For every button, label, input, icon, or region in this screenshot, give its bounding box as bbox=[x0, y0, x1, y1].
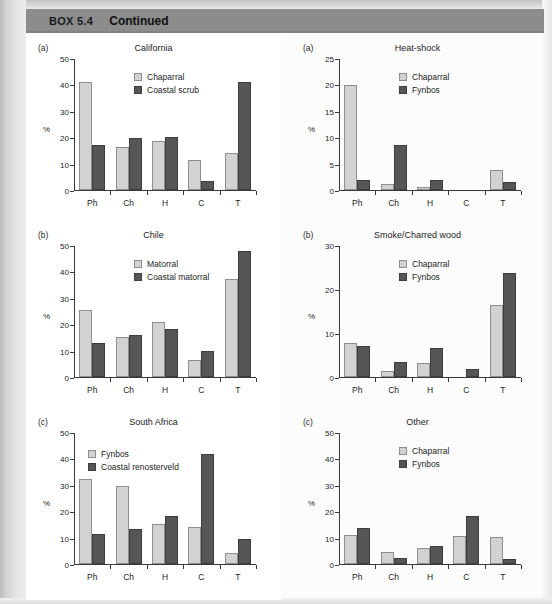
x-axis-tick-label: C bbox=[463, 385, 469, 395]
y-axis-label: % bbox=[308, 499, 315, 508]
x-axis-line bbox=[339, 564, 521, 565]
box-number-label: BOX 5.4 bbox=[49, 15, 93, 27]
x-axis-tick bbox=[183, 565, 184, 569]
bar bbox=[357, 180, 370, 190]
y-axis-tick-label: 30 bbox=[325, 242, 334, 251]
bar bbox=[344, 535, 357, 564]
y-axis-tick-label: 10 bbox=[325, 134, 334, 143]
bar bbox=[430, 180, 443, 190]
x-axis-tick-label: T bbox=[235, 198, 240, 208]
x-axis-tick-label: C bbox=[198, 572, 204, 582]
bar bbox=[188, 160, 201, 190]
bar bbox=[344, 85, 357, 190]
bar bbox=[381, 184, 394, 190]
x-axis-tick bbox=[412, 191, 413, 195]
x-axis-tick-label: Ch bbox=[388, 572, 399, 582]
scan-edge-top bbox=[0, 0, 552, 9]
chart-title: Heat-shock bbox=[291, 43, 544, 53]
chart-panel-california: (a)California%01020304050PhChHCTChaparra… bbox=[26, 37, 281, 224]
y-axis-tick-label: 10 bbox=[60, 160, 69, 169]
x-axis-tick-label: C bbox=[198, 385, 204, 395]
x-axis-tick-label: C bbox=[463, 572, 469, 582]
x-axis-tick bbox=[110, 565, 111, 569]
x-axis-line bbox=[74, 564, 256, 565]
y-axis-tick-label: 20 bbox=[325, 286, 334, 295]
chart-legend: ChaparralCoastal scrub bbox=[134, 70, 199, 96]
x-axis-tick bbox=[448, 191, 449, 195]
y-axis-tick bbox=[70, 59, 74, 60]
chart-title: Chile bbox=[26, 230, 281, 240]
x-axis-tick bbox=[110, 191, 111, 195]
y-axis-line bbox=[74, 59, 75, 191]
bar bbox=[79, 479, 92, 564]
y-axis-tick bbox=[70, 325, 74, 326]
bar bbox=[381, 371, 394, 377]
x-axis-tick bbox=[256, 565, 257, 569]
bar bbox=[238, 539, 251, 564]
bar bbox=[503, 559, 516, 564]
y-axis-line bbox=[74, 246, 75, 378]
legend-swatch-icon bbox=[88, 463, 96, 471]
y-axis-tick bbox=[335, 246, 339, 247]
x-axis-tick-label: Ph bbox=[352, 572, 362, 582]
y-axis-line bbox=[339, 433, 340, 565]
bar bbox=[116, 337, 129, 377]
y-axis-tick-label: 0 bbox=[65, 561, 69, 570]
y-axis-tick bbox=[70, 512, 74, 513]
bar bbox=[466, 369, 479, 377]
y-axis-tick-label: 15 bbox=[325, 107, 334, 116]
y-axis-tick-label: 20 bbox=[60, 508, 69, 517]
legend-label: Chaparral bbox=[412, 446, 449, 456]
legend-item: Chaparral bbox=[134, 70, 199, 83]
legend-label: Coastal renosterveld bbox=[101, 462, 179, 472]
y-axis-line bbox=[339, 59, 340, 191]
chart-panel-heat-shock: (a)Heat-shock%0510152025PhChHCTChaparral… bbox=[291, 37, 544, 224]
y-axis-tick-label: 50 bbox=[60, 242, 69, 251]
x-axis-tick-label: T bbox=[235, 572, 240, 582]
x-axis-tick bbox=[521, 378, 522, 382]
legend-label: Chaparral bbox=[412, 72, 449, 82]
legend-item: Fynbos bbox=[88, 447, 179, 460]
figure-grid: (a)California%01020304050PhChHCTChaparra… bbox=[26, 37, 544, 600]
x-axis-tick-label: Ph bbox=[87, 385, 97, 395]
y-axis-tick-label: 30 bbox=[325, 481, 334, 490]
y-axis-tick bbox=[70, 299, 74, 300]
y-axis-tick-label: 40 bbox=[60, 81, 69, 90]
legend-swatch-icon bbox=[399, 460, 407, 468]
chart-legend: ChaparralFynbos bbox=[399, 444, 449, 470]
x-axis-tick-label: H bbox=[427, 385, 433, 395]
y-axis-line bbox=[74, 433, 75, 565]
legend-swatch-icon bbox=[399, 86, 407, 94]
legend-label: Chaparral bbox=[147, 72, 184, 82]
y-axis-tick bbox=[335, 334, 339, 335]
y-axis-tick bbox=[70, 272, 74, 273]
bar bbox=[238, 251, 251, 377]
chart-legend: FynbosCoastal renosterveld bbox=[88, 447, 179, 473]
legend-item: Chaparral bbox=[399, 70, 449, 83]
x-axis-tick bbox=[485, 378, 486, 382]
bar bbox=[152, 322, 165, 377]
x-axis-tick bbox=[448, 378, 449, 382]
chart-legend: MatorralCoastal matorral bbox=[134, 257, 209, 283]
legend-swatch-icon bbox=[399, 447, 407, 455]
y-axis-tick-label: 40 bbox=[60, 455, 69, 464]
page-canvas: BOX 5.4 Continued (a)California%01020304… bbox=[0, 0, 552, 604]
legend-swatch-icon bbox=[399, 73, 407, 81]
bar bbox=[116, 486, 129, 564]
x-axis-tick bbox=[375, 378, 376, 382]
chart-title: Smoke/Charred wood bbox=[291, 230, 544, 240]
x-axis-tick-label: C bbox=[198, 198, 204, 208]
legend-label: Chaparral bbox=[412, 259, 449, 269]
y-axis-tick bbox=[335, 378, 339, 379]
x-axis-tick-label: Ph bbox=[87, 572, 97, 582]
legend-label: Fynbos bbox=[412, 459, 440, 469]
y-axis-tick-label: 0 bbox=[65, 374, 69, 383]
x-axis-tick-label: Ch bbox=[123, 572, 134, 582]
x-axis-tick bbox=[521, 191, 522, 195]
y-axis-tick bbox=[335, 486, 339, 487]
y-axis-tick bbox=[70, 433, 74, 434]
x-axis-tick-label: Ch bbox=[388, 385, 399, 395]
x-axis-tick-label: H bbox=[427, 198, 433, 208]
y-axis-tick-label: 40 bbox=[325, 455, 334, 464]
y-axis-tick bbox=[70, 459, 74, 460]
